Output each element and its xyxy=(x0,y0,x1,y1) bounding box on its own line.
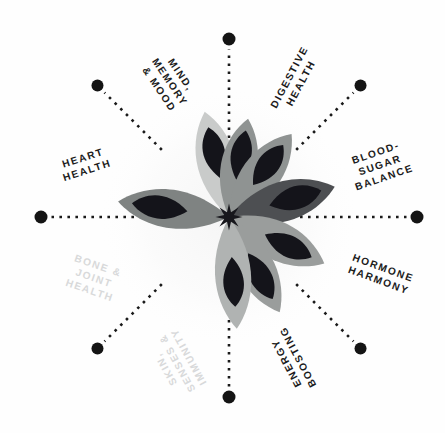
spoke-bottom-endpoint-dot[interactable] xyxy=(223,391,236,404)
health-benefit-wheel-diagram: MIND,MEMORY& MOODDIGESTIVEHEALTHBLOOD-SU… xyxy=(0,0,445,433)
spoke-lower-left-endpoint-dot[interactable] xyxy=(91,343,103,355)
spoke-lower-right-endpoint-dot[interactable] xyxy=(355,343,367,355)
spoke-left-endpoint-dot[interactable] xyxy=(35,211,48,224)
spoke-top-endpoint-dot[interactable] xyxy=(223,33,236,46)
wheel-graphic xyxy=(0,0,445,433)
spoke-upper-left-endpoint-dot[interactable] xyxy=(91,79,103,91)
center-star-icon xyxy=(216,204,243,231)
spoke-right-endpoint-dot[interactable] xyxy=(411,211,424,224)
spoke-upper-right-endpoint-dot[interactable] xyxy=(355,79,367,91)
